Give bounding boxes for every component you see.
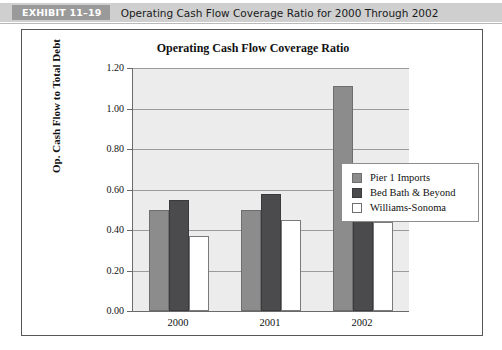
- y-axis-tick-labels: 0.000.200.400.600.801.001.20: [84, 68, 124, 311]
- figure-frame: Operating Cash Flow Coverage Ratio Op. C…: [21, 29, 483, 336]
- legend-item: Bed Bath & Beyond: [352, 185, 470, 200]
- bar: [261, 194, 281, 311]
- y-axis-tick-label: 1.20: [88, 62, 124, 73]
- y-axis-title: Op. Cash Flow to Total Debt: [50, 6, 62, 206]
- y-axis-tick-label: 0.40: [88, 224, 124, 235]
- bar: [149, 210, 169, 311]
- legend-swatch-icon: [352, 203, 362, 213]
- bar: [241, 210, 261, 311]
- x-axis-tick-label: 2001: [224, 317, 316, 328]
- legend-item: Williams-Sonoma: [352, 200, 470, 215]
- chart-title: Operating Cash Flow Coverage Ratio: [22, 41, 484, 56]
- y-axis-tick-label: 0.80: [88, 143, 124, 154]
- x-axis-tick-label: 2000: [132, 317, 224, 328]
- legend-swatch-icon: [352, 188, 362, 198]
- y-axis-tick-label: 0.00: [88, 305, 124, 316]
- header-divider: [0, 23, 502, 24]
- y-axis-tick-label: 0.60: [88, 184, 124, 195]
- bar-group: [225, 68, 317, 311]
- legend-label: Bed Bath & Beyond: [370, 187, 455, 198]
- bar-group: [133, 68, 225, 311]
- y-axis-tick-label: 0.20: [88, 265, 124, 276]
- legend-label: Pier 1 Imports: [370, 172, 430, 183]
- bar: [373, 222, 393, 311]
- exhibit-caption: Operating Cash Flow Coverage Ratio for 2…: [121, 7, 439, 19]
- y-axis-tick-label: 1.00: [88, 103, 124, 114]
- bar: [169, 200, 189, 311]
- legend-label: Williams-Sonoma: [370, 202, 446, 213]
- bar: [281, 220, 301, 311]
- bar: [189, 236, 209, 311]
- x-axis-tick-label: 2002: [316, 317, 408, 328]
- chart-legend: Pier 1 ImportsBed Bath & BeyondWilliams-…: [341, 163, 479, 222]
- legend-item: Pier 1 Imports: [352, 170, 470, 185]
- legend-swatch-icon: [352, 173, 362, 183]
- exhibit-header: EXHIBIT 11–19 Operating Cash Flow Covera…: [0, 3, 502, 22]
